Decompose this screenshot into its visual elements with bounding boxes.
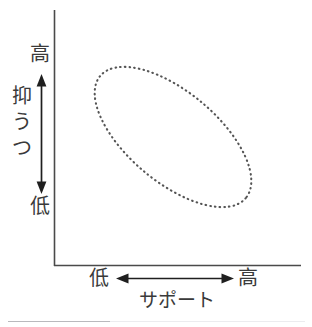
x-axis-high-label: 高: [238, 268, 258, 288]
y-axis-double-arrow-icon: [37, 74, 47, 194]
y-axis-low-label: 低: [30, 196, 50, 216]
y-axis-title-char-1: 抑: [11, 86, 33, 106]
x-axis-low-label: 低: [89, 268, 109, 288]
figure-container: 高 低 抑 う つ 低 高 サポート: [0, 0, 312, 327]
x-axis-title: サポート: [54, 291, 300, 310]
x-axis-double-arrow-icon: [116, 274, 234, 284]
y-axis-title-char-3: つ: [11, 138, 33, 158]
y-axis-title: 抑 う つ: [11, 86, 33, 164]
y-axis-title-char-2: う: [11, 112, 33, 132]
y-axis-high-label: 高: [30, 44, 50, 64]
correlation-ellipse: [71, 41, 274, 232]
